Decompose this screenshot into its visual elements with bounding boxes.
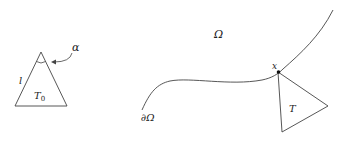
element-triangle [278,72,328,132]
point-label: x [272,61,277,71]
element-triangle-label: T [289,103,297,114]
diagram-canvas: α l T0 Ω ∂Ω x T [0,0,340,141]
angle-pointer-arrow [54,53,72,62]
reference-triangle-label: T0 [34,90,45,103]
domain-boundary-curve [142,10,333,110]
angle-arc [37,62,46,64]
reference-triangle-group: α l T0 [15,41,80,106]
side-label: l [19,75,22,86]
domain-group: Ω ∂Ω x T [141,10,333,132]
boundary-point [277,70,281,74]
domain-label: Ω [213,28,223,41]
reference-triangle-subscript: 0 [41,95,45,103]
angle-label: α [72,41,80,54]
arrowhead-icon [51,60,56,65]
boundary-label: ∂Ω [141,112,154,123]
